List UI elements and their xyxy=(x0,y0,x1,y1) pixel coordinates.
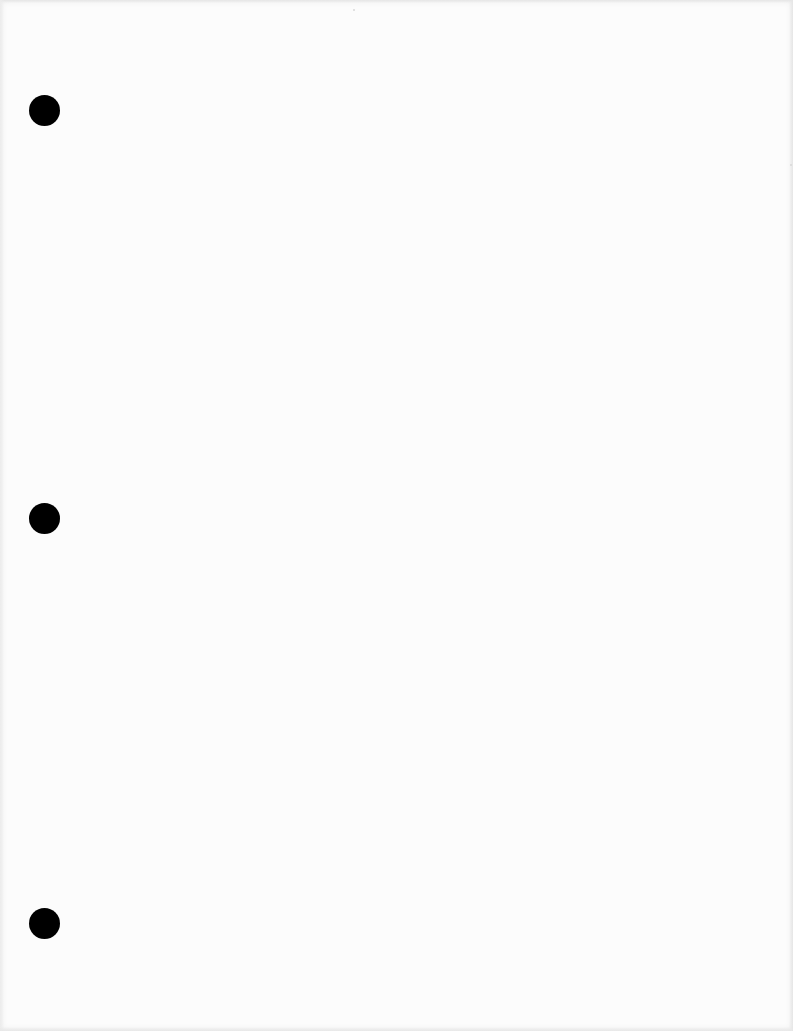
blank-page xyxy=(0,0,793,1031)
punch-hole-bottom xyxy=(29,908,60,939)
punch-hole-top xyxy=(29,95,60,126)
scan-speck xyxy=(790,164,792,166)
punch-hole-middle xyxy=(29,503,60,534)
page-top-edge-shadow xyxy=(0,0,793,3)
page-left-edge-shadow xyxy=(0,0,4,1031)
page-bottom-edge-shadow xyxy=(0,1027,793,1031)
scan-speck xyxy=(353,9,355,11)
page-right-edge-shadow xyxy=(789,0,793,1031)
